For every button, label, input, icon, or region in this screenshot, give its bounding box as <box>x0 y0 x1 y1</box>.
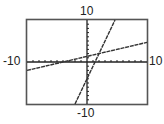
graph-plot <box>0 0 164 124</box>
axes <box>27 20 147 104</box>
